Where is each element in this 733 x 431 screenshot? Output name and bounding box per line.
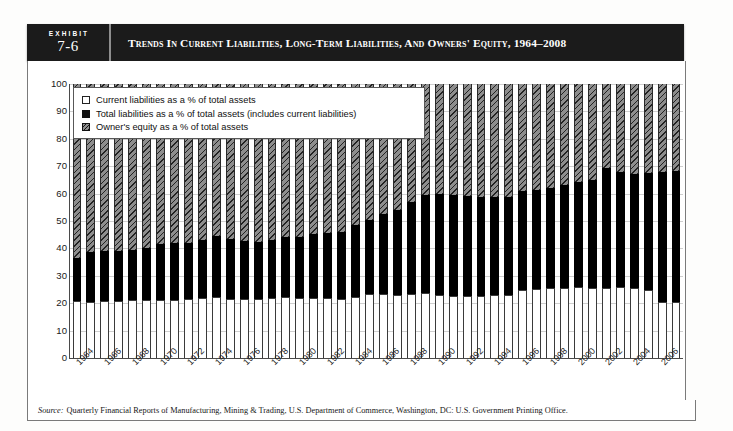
segment-total-liabilities — [504, 197, 513, 295]
bar-2003 — [616, 84, 625, 358]
legend-label: Owner's equity as a % of total assets — [96, 122, 248, 132]
y-tick-label: 80 — [33, 133, 67, 144]
segment-total-liabilities — [560, 185, 569, 288]
segment-total-liabilities — [574, 182, 583, 287]
segment-total-liabilities — [100, 251, 109, 301]
segment-total-liabilities — [309, 234, 318, 298]
segment-total-liabilities — [295, 237, 304, 298]
segment-total-liabilities — [490, 197, 499, 295]
segment-total-liabilities — [281, 237, 290, 297]
segment-total-liabilities — [170, 243, 179, 300]
segment-current-liabilities — [100, 301, 109, 358]
segment-total-liabilities — [323, 233, 332, 299]
source-note: Source: Quarterly Financial Reports of M… — [27, 400, 696, 421]
chart-legend: Current liabilities as a % of total asse… — [73, 87, 425, 139]
segment-total-liabilities — [616, 172, 625, 288]
bar-1991 — [449, 84, 458, 358]
segment-total-liabilities — [644, 173, 653, 290]
segment-owners-equity — [658, 84, 667, 172]
bar-1997 — [532, 84, 541, 358]
y-tick-label: 10 — [33, 325, 67, 336]
segment-total-liabilities — [435, 194, 444, 295]
segment-current-liabilities — [490, 295, 499, 358]
segment-total-liabilities — [477, 197, 486, 295]
segment-total-liabilities — [421, 195, 430, 294]
exhibit-page: EXHIBIT 7-6 Trends in Current Liabilitie… — [0, 0, 733, 431]
segment-current-liabilities — [184, 299, 193, 358]
segment-total-liabilities — [73, 258, 82, 301]
segment-total-liabilities — [86, 252, 95, 302]
y-tick-label: 60 — [33, 188, 67, 199]
segment-owners-equity — [477, 84, 486, 197]
segment-total-liabilities — [142, 248, 151, 300]
x-axis: 1964196619681970197219741976197819801982… — [69, 360, 682, 402]
y-tick-label: 90 — [33, 105, 67, 116]
bar-2007 — [672, 84, 681, 358]
segment-current-liabilities — [546, 288, 555, 358]
white-square-icon — [82, 96, 90, 104]
segment-total-liabilities — [630, 174, 639, 289]
segment-owners-equity — [616, 84, 625, 172]
legend-label: Current liabilities as a % of total asse… — [96, 95, 256, 105]
segment-total-liabilities — [602, 168, 611, 287]
bar-1998 — [546, 84, 555, 358]
segment-total-liabilities — [463, 196, 472, 296]
segment-current-liabilities — [156, 300, 165, 358]
segment-total-liabilities — [240, 241, 249, 299]
segment-total-liabilities — [351, 225, 360, 297]
legend-label: Total liabilities as a % of total assets… — [96, 109, 356, 119]
segment-current-liabilities — [630, 288, 639, 358]
segment-owners-equity — [630, 84, 639, 174]
segment-owners-equity — [644, 84, 653, 173]
segment-total-liabilities — [184, 243, 193, 299]
segment-total-liabilities — [254, 242, 263, 299]
segment-total-liabilities — [449, 195, 458, 296]
segment-current-liabilities — [602, 288, 611, 358]
segment-total-liabilities — [379, 214, 388, 295]
segment-owners-equity — [588, 84, 597, 180]
y-tick-label: 100 — [33, 78, 67, 89]
bar-1992 — [463, 84, 472, 358]
bar-1990 — [435, 84, 444, 358]
segment-current-liabilities — [128, 300, 137, 358]
bar-2005 — [644, 84, 653, 358]
segment-total-liabilities — [226, 239, 235, 300]
segment-current-liabilities — [379, 294, 388, 358]
exhibit-kicker: EXHIBIT — [47, 30, 89, 38]
segment-current-liabilities — [518, 290, 527, 359]
segment-current-liabilities — [73, 301, 82, 358]
segment-current-liabilities — [351, 297, 360, 358]
exhibit-title: Trends in Current Liabilities, Long-Term… — [111, 24, 684, 61]
exhibit-number-block: EXHIBIT 7-6 — [27, 24, 111, 61]
y-tick-label: 30 — [33, 270, 67, 281]
segment-total-liabilities — [518, 191, 527, 289]
exhibit-number: 7-6 — [57, 38, 79, 54]
bar-2000 — [574, 84, 583, 358]
segment-owners-equity — [560, 84, 569, 185]
segment-owners-equity — [463, 84, 472, 196]
segment-owners-equity — [490, 84, 499, 197]
segment-total-liabilities — [532, 190, 541, 289]
segment-owners-equity — [435, 84, 444, 194]
legend-item: Current liabilities as a % of total asse… — [82, 93, 417, 107]
y-axis: 0102030405060708090100 — [28, 84, 67, 358]
segment-total-liabilities — [114, 251, 123, 301]
segment-total-liabilities — [268, 240, 277, 298]
segment-owners-equity — [504, 84, 513, 197]
y-tick-label: 0 — [33, 352, 67, 363]
legend-item: Owner's equity as a % of total assets — [82, 120, 417, 134]
segment-current-liabilities — [212, 297, 221, 358]
segment-total-liabilities — [212, 236, 221, 297]
segment-owners-equity — [518, 84, 527, 191]
segment-owners-equity — [532, 84, 541, 190]
y-tick-label: 40 — [33, 242, 67, 253]
segment-total-liabilities — [128, 250, 137, 300]
segment-total-liabilities — [337, 232, 346, 299]
segment-total-liabilities — [156, 244, 165, 300]
segment-owners-equity — [672, 84, 681, 171]
segment-total-liabilities — [393, 210, 402, 295]
segment-current-liabilities — [295, 298, 304, 358]
bar-2002 — [602, 84, 611, 358]
chart-plate: 0102030405060708090100 19641966196819701… — [27, 61, 686, 401]
segment-total-liabilities — [672, 171, 681, 303]
